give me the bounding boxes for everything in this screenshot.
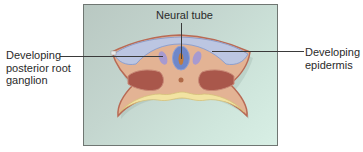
posterior-root-ganglion-label: Developing posterior root ganglion bbox=[6, 49, 71, 87]
epidermis-leader bbox=[212, 51, 304, 52]
ganglion-leader bbox=[60, 56, 163, 57]
epidermis-label: Developing epidermis bbox=[305, 46, 360, 71]
notochord bbox=[179, 78, 184, 83]
neural-tube-label: Neural tube bbox=[156, 9, 213, 22]
neural-tube-leader bbox=[181, 23, 182, 59]
